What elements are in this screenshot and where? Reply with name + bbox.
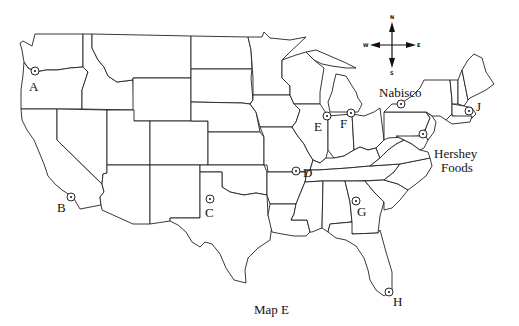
marker-j xyxy=(465,107,473,115)
marker-f xyxy=(347,109,355,117)
marker-c xyxy=(206,195,214,203)
us-map: N S W E A B C D E F Nabisco J Hershey Fo… xyxy=(0,0,519,326)
marker-label-a: A xyxy=(29,80,38,93)
state-wyoming xyxy=(133,78,191,121)
state-arizona xyxy=(100,165,150,224)
state-maine xyxy=(462,54,494,100)
marker-label-g: G xyxy=(357,205,366,218)
marker-nabisco xyxy=(397,100,405,108)
marker-label-j: J xyxy=(476,100,481,113)
compass-north-label: N xyxy=(390,14,394,20)
marker-label-d: D xyxy=(303,166,312,179)
marker-b xyxy=(67,193,75,201)
marker-a xyxy=(31,67,39,75)
state-north-dakota xyxy=(191,36,252,69)
marker-label-b: B xyxy=(57,201,66,214)
state-south-dakota xyxy=(191,69,253,104)
compass-east-label: E xyxy=(417,42,420,48)
marker-label-hershey-line1: Hershey xyxy=(434,147,477,160)
state-new-mexico xyxy=(150,165,200,224)
marker-label-c: C xyxy=(205,206,214,219)
marker-hershey xyxy=(419,130,427,138)
compass-south-label: S xyxy=(390,70,394,76)
state-michigan xyxy=(328,74,362,112)
marker-d xyxy=(292,167,300,175)
states-west xyxy=(20,34,208,224)
state-kansas xyxy=(208,132,264,165)
marker-h xyxy=(385,288,393,296)
marker-label-e: E xyxy=(314,120,322,133)
marker-label-nabisco: Nabisco xyxy=(379,86,422,99)
state-ohio xyxy=(352,108,384,150)
marker-label-f: F xyxy=(340,117,347,130)
compass-west-label: W xyxy=(363,42,369,48)
marker-e xyxy=(323,112,331,120)
map-caption: Map E xyxy=(254,302,289,318)
marker-label-hershey-line2: Foods xyxy=(441,161,473,174)
state-colorado xyxy=(150,121,208,165)
state-washington xyxy=(20,34,83,72)
compass-rose-icon xyxy=(370,22,416,68)
marker-label-h: H xyxy=(393,295,402,308)
